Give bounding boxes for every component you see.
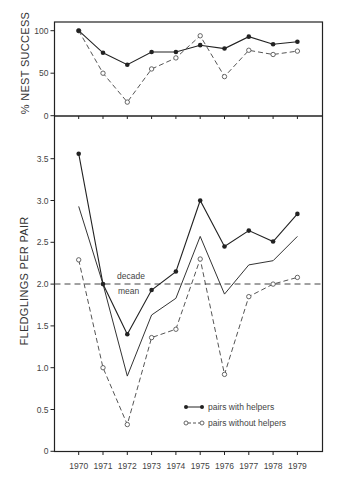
filled-marker <box>101 282 106 287</box>
open-marker <box>198 257 202 261</box>
series-layer <box>76 28 299 426</box>
x-tick-label: 1972 <box>118 461 137 471</box>
filled-marker <box>125 332 130 337</box>
open-marker <box>295 49 299 53</box>
open-marker <box>295 275 299 279</box>
filled-marker <box>222 244 227 249</box>
y-tick-label: 1.0 <box>37 363 49 373</box>
open-marker <box>125 422 129 426</box>
x-tick-label: 1977 <box>239 461 258 471</box>
filled-marker <box>125 62 130 67</box>
x-tick-label: 1974 <box>166 461 185 471</box>
x-tick-label: 1978 <box>264 461 283 471</box>
open-marker <box>149 335 153 339</box>
y-tick-label: 50 <box>39 68 49 78</box>
filled-marker <box>174 269 179 274</box>
y-tick-label: 0 <box>44 111 49 121</box>
open-marker <box>198 34 202 38</box>
top-y-axis: 050100 <box>34 26 54 121</box>
open-marker <box>247 294 251 298</box>
filled-marker <box>295 212 300 217</box>
y-tick-label: 1.5 <box>37 321 49 331</box>
filled-marker <box>271 239 276 244</box>
series-with-helpers <box>79 31 298 65</box>
series-with-helpers <box>79 154 298 335</box>
top-y-axis-title: % NEST SUCCESS <box>19 12 31 114</box>
open-marker <box>125 100 129 104</box>
x-tick-label: 1975 <box>191 461 210 471</box>
filled-marker <box>101 51 106 56</box>
y-tick-label: 0 <box>44 446 49 456</box>
series-mean <box>79 206 298 376</box>
y-tick-label: 2.0 <box>37 279 49 289</box>
filled-marker <box>174 50 179 55</box>
filled-marker <box>295 39 300 44</box>
open-marker <box>101 71 105 75</box>
open-marker <box>222 74 226 78</box>
filled-marker <box>149 288 154 293</box>
y-tick-label: 100 <box>34 26 48 36</box>
open-marker <box>149 67 153 71</box>
legend-with-helpers: pairs with helpers <box>208 402 274 412</box>
legend-without-helpers: pairs without helpers <box>208 418 286 428</box>
filled-marker <box>198 43 203 48</box>
open-marker <box>174 56 178 60</box>
open-marker <box>271 282 275 286</box>
open-marker <box>247 48 251 52</box>
open-marker <box>222 372 226 376</box>
x-tick-label: 1979 <box>288 461 307 471</box>
legend-filled-marker <box>200 405 204 409</box>
legend-filled-marker <box>184 405 188 409</box>
y-tick-label: 2.5 <box>37 237 49 247</box>
decade-mean-label-1: decade <box>117 271 145 281</box>
filled-marker <box>247 34 252 39</box>
y-tick-label: 0.5 <box>37 405 49 415</box>
filled-marker <box>149 50 154 55</box>
y-tick-label: 3.5 <box>37 154 49 164</box>
open-marker <box>77 258 81 262</box>
x-tick-label: 1970 <box>69 461 88 471</box>
filled-marker <box>76 28 81 33</box>
open-marker <box>174 327 178 331</box>
filled-marker <box>198 198 203 203</box>
filled-marker <box>76 151 81 156</box>
x-tick-label: 1971 <box>94 461 113 471</box>
legend: pairs with helpers pairs without helpers <box>184 402 286 428</box>
bottom-y-axis-title: FLEDGLINGS PER PAIR <box>18 217 30 346</box>
y-tick-label: 3.0 <box>37 196 49 206</box>
bottom-y-axis: 00.51.01.52.02.53.03.5 <box>37 154 55 457</box>
open-marker <box>271 52 275 56</box>
filled-marker <box>222 46 227 51</box>
x-tick-label: 1973 <box>142 461 161 471</box>
filled-marker <box>247 228 252 233</box>
legend-open-marker <box>184 421 188 425</box>
legend-open-marker <box>200 421 204 425</box>
open-marker <box>101 366 105 370</box>
filled-marker <box>271 42 276 47</box>
fledgling-chart: 050100 00.51.01.52.02.53.03.5 1970197119… <box>0 0 338 486</box>
decade-mean-label-2: mean <box>118 286 140 296</box>
x-tick-label: 1976 <box>215 461 234 471</box>
